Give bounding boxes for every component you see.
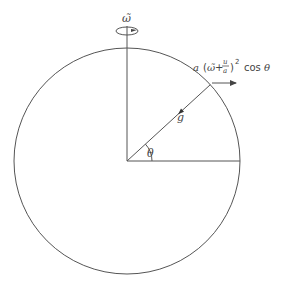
formula-theta: θ — [264, 62, 270, 73]
theta-label: θ — [147, 147, 154, 160]
omega-label: ω̃ — [122, 12, 131, 25]
rotation-arrow-icon — [131, 29, 137, 32]
formula-numerator: u — [223, 58, 228, 66]
formula-exponent: 2 — [235, 58, 239, 66]
formula: a ( ω̃ + u a ) 2 cos θ — [193, 58, 270, 75]
formula-prefix: a — [193, 62, 199, 73]
formula-close-paren: ) — [230, 62, 234, 73]
rotating-sphere-diagram: ω̃ g θ a ( ω̃ + u a ) 2 cos θ — [0, 0, 285, 286]
g-label: g — [177, 111, 184, 124]
latitude-radius — [127, 85, 210, 161]
formula-denominator: a — [223, 67, 227, 75]
formula-cos: cos — [244, 62, 261, 73]
formula-omega: ω̃ — [207, 62, 215, 73]
